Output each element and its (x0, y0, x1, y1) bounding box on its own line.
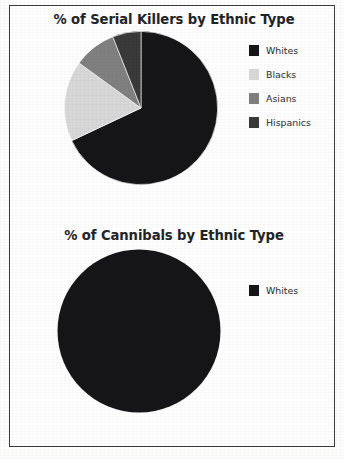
pie-svg-serial-killers (62, 29, 220, 187)
legend-label: Whites (266, 45, 298, 56)
legend-item-hispanics: Hispanics (249, 117, 311, 128)
legend-swatch-icon-hispanics (249, 117, 259, 128)
pie-chart-cannibals (55, 247, 223, 415)
pie-chart-serial-killers (62, 29, 220, 187)
chart-serial-killers: % of Serial Killers by Ethnic Type White… (0, 12, 344, 217)
scanned-page: % of Serial Killers by Ethnic Type White… (0, 0, 344, 459)
legend-item-whites: Whites (249, 45, 311, 56)
legend-label: Blacks (266, 69, 296, 80)
legend-item-blacks: Blacks (249, 69, 311, 80)
legend-label: Whites (266, 285, 298, 296)
legend-swatch-icon-whites (249, 45, 259, 56)
chart-cannibals: % of Cannibals by Ethnic Type Whites (0, 228, 344, 443)
legend-item-whites: Whites (249, 285, 298, 296)
legend-swatch-icon-blacks (249, 69, 259, 80)
plot-area-serial-killers: WhitesBlacksAsiansHispanics (0, 27, 344, 197)
legend-label: Asians (266, 93, 296, 104)
plot-area-cannibals: Whites (0, 243, 344, 423)
legend-swatch-icon-asians (249, 93, 259, 104)
pie-slice-whites (58, 250, 221, 413)
legend-cannibals: Whites (249, 285, 298, 296)
chart-title-cannibals: % of Cannibals by Ethnic Type (4, 228, 344, 243)
pie-svg-cannibals (55, 247, 223, 415)
legend-label: Hispanics (266, 117, 311, 128)
legend-item-asians: Asians (249, 93, 311, 104)
legend-swatch-icon-whites (249, 285, 259, 296)
chart-title-serial-killers: % of Serial Killers by Ethnic Type (4, 12, 344, 27)
legend-serial-killers: WhitesBlacksAsiansHispanics (249, 45, 311, 128)
